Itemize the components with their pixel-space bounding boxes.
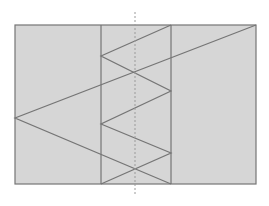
optics-diagram (0, 0, 269, 206)
